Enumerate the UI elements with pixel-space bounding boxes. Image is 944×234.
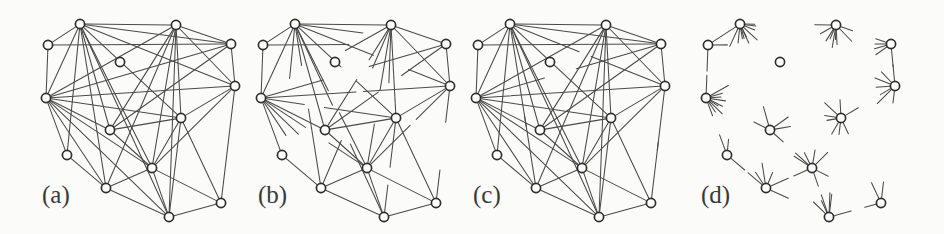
- graph-node-13: [115, 57, 124, 66]
- graph-edge: [329, 143, 363, 165]
- graph-edge: [48, 103, 65, 150]
- graph-node-9: [362, 163, 371, 172]
- figure-canvas: (a)(b)(c)(d): [0, 0, 944, 234]
- graph-node: [290, 19, 299, 28]
- graph-edge: [369, 173, 383, 212]
- graph-drawing-figure: (a)(b)(c)(d): [0, 0, 944, 234]
- graph-edge: [893, 91, 894, 103]
- graph-edge: [825, 116, 836, 118]
- panel-label-a: (a): [42, 181, 70, 209]
- graph-edge: [882, 182, 884, 198]
- graph-node-8: [277, 150, 286, 159]
- graph-edge: [840, 29, 852, 42]
- graph-node: [386, 20, 395, 29]
- graph-edge: [706, 75, 707, 92]
- graph-node: [258, 40, 267, 49]
- graph-node-2: [703, 40, 712, 49]
- graph-edge: [446, 49, 449, 81]
- graph-node-1: [171, 20, 180, 29]
- graph-node: [41, 93, 50, 102]
- graph-edge: [481, 99, 606, 117]
- graph-edge: [371, 125, 410, 164]
- graph-edge: [576, 45, 656, 68]
- graph-node: [164, 212, 173, 221]
- graph-edge: [825, 103, 838, 115]
- graph-node: [62, 150, 71, 159]
- graph-node: [890, 81, 899, 90]
- graph-edge: [731, 158, 745, 170]
- graph-edge: [483, 44, 656, 45]
- graph-edge: [185, 89, 230, 116]
- graph-node: [831, 20, 840, 29]
- graph-edge: [832, 123, 839, 134]
- graph-node: [471, 93, 480, 102]
- graph-node-12: [594, 212, 603, 221]
- graph-node-6: [176, 113, 185, 122]
- graph-node: [594, 212, 603, 221]
- graph-node: [362, 163, 371, 172]
- graph-edge: [350, 144, 381, 212]
- graph-node: [701, 93, 710, 102]
- graph-edge: [840, 100, 841, 113]
- graph-node: [765, 125, 774, 134]
- graph-node-6: [606, 113, 615, 122]
- graph-edge: [501, 158, 532, 184]
- graph-edge: [400, 89, 445, 116]
- graph-node: [445, 81, 454, 90]
- graph-node-7: [765, 125, 774, 134]
- graph-node-5: [660, 81, 669, 90]
- graph-edge: [865, 204, 876, 207]
- graph-node-13: [545, 57, 554, 66]
- graph-node: [545, 57, 554, 66]
- graph-edge: [85, 24, 171, 25]
- graph-node: [492, 150, 501, 159]
- graph-edge: [814, 173, 819, 186]
- graph-edge: [290, 29, 295, 78]
- graph-node: [256, 93, 265, 102]
- graph-node-12: [164, 212, 173, 221]
- graph-edge: [266, 100, 321, 127]
- graph-edge: [479, 102, 533, 183]
- graph-edge: [768, 173, 773, 184]
- graph-edge: [363, 86, 444, 91]
- graph-node: [147, 163, 156, 172]
- graph-node-6: [391, 113, 400, 122]
- graph-edge: [437, 170, 440, 198]
- graph-edge: [51, 100, 106, 127]
- graph-node-10: [761, 183, 770, 192]
- graph-edge: [584, 173, 598, 212]
- graph-edge: [326, 190, 380, 215]
- graph-edge: [409, 69, 446, 84]
- graph-node: [505, 19, 514, 28]
- graph-node-3: [441, 39, 450, 48]
- graph-edge: [586, 90, 662, 165]
- panel-label-c: (c): [473, 181, 501, 209]
- graph-node-5: [445, 81, 454, 90]
- graph-node: [646, 198, 655, 207]
- graph-edge: [323, 141, 341, 184]
- graph-node: [606, 113, 615, 122]
- graph-node: [531, 183, 540, 192]
- graph-node: [601, 20, 610, 29]
- graph-edge: [369, 29, 388, 59]
- graph-node-2: [258, 40, 267, 49]
- graph-edge: [834, 211, 851, 216]
- graph-node-8: [62, 150, 71, 159]
- graph-edge: [261, 50, 263, 93]
- edge-layer: [476, 24, 664, 216]
- graph-edge: [817, 170, 829, 176]
- graph-node: [824, 212, 833, 221]
- graph-node: [379, 212, 388, 221]
- graph-node: [176, 113, 185, 122]
- graph-node-7: [535, 125, 544, 134]
- graph-node-9: [147, 163, 156, 172]
- graph-edge: [604, 204, 646, 215]
- graph-edge: [754, 122, 765, 128]
- graph-edge: [877, 90, 891, 104]
- graph-node: [277, 150, 286, 159]
- graph-node-11: [431, 198, 440, 207]
- graph-node: [75, 19, 84, 28]
- graph-edge: [339, 113, 364, 164]
- graph-edge: [615, 89, 660, 116]
- graph-node-11: [646, 198, 655, 207]
